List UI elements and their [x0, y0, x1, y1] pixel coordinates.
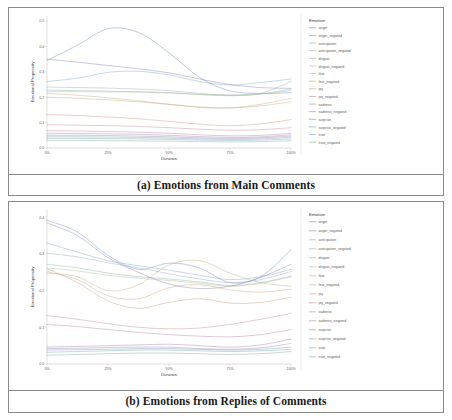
- legend-label-disgust_negated[interactable]: disgust_negated: [319, 265, 345, 269]
- series-line-anticipation: [47, 243, 291, 280]
- legend-label-anger[interactable]: anger: [319, 220, 329, 224]
- series-line-joy_negated: [47, 125, 291, 131]
- y-tick-label: 0.2: [39, 289, 44, 293]
- figure-caption-b: (b) Emotions from Replies of Comments: [9, 390, 443, 412]
- y-tick-label: 0.5: [39, 19, 44, 23]
- legend-label-anticipation[interactable]: anticipation: [319, 42, 337, 46]
- legend-label-fear_negated[interactable]: fear_negated: [319, 80, 340, 84]
- series-line-joy: [47, 269, 291, 309]
- legend-label-anticipation_negated[interactable]: anticipation_negated: [319, 247, 351, 251]
- series-line-trust_negated: [47, 352, 291, 356]
- legend-label-trust_negated[interactable]: trust_negated: [319, 141, 340, 145]
- x-tick-label: 25%: [104, 151, 112, 155]
- series-line-sadness_negated: [47, 339, 291, 347]
- legend-label-disgust[interactable]: disgust: [319, 57, 330, 61]
- x-tick-label: 75%: [226, 367, 234, 371]
- legend-label-anger_negated[interactable]: anger_negated: [319, 229, 343, 233]
- legend-label-surprise[interactable]: surprise: [319, 118, 332, 122]
- legend-title: Emotion: [309, 212, 326, 217]
- series-line-trust_negated: [47, 140, 291, 142]
- figure-panel-a: 0.00.10.20.30.40.50%25%50%75%100%Duratio…: [8, 7, 444, 196]
- figure-caption-a: (a) Emotions from Main Comments: [9, 174, 443, 196]
- y-tick-label: 0.4: [39, 216, 44, 220]
- legend-label-joy[interactable]: joy: [318, 292, 324, 296]
- y-tick-label: 0.4: [39, 45, 44, 49]
- y-tick-label: 0.1: [39, 326, 44, 330]
- legend-label-surprise_negated[interactable]: surprise_negated: [319, 337, 346, 341]
- legend-label-anger[interactable]: anger: [319, 26, 329, 30]
- chart-replies-comments: 0.00.10.20.30.40%25%50%75%100%DurationEm…: [9, 202, 443, 390]
- chart-main-comments: 0.00.10.20.30.40.50%25%50%75%100%Duratio…: [9, 8, 443, 174]
- legend-label-fear_negated[interactable]: fear_negated: [319, 283, 340, 287]
- legend-label-anticipation[interactable]: anticipation: [319, 238, 337, 242]
- y-tick-label: 0.1: [39, 121, 44, 125]
- series-line-anger: [47, 28, 291, 94]
- x-tick-label: 50%: [165, 151, 173, 155]
- series-line-anticipation: [47, 71, 291, 85]
- legend-label-trust[interactable]: trust: [319, 346, 326, 350]
- series-line-fear_negated: [47, 97, 291, 108]
- chart-svg-replies-comments: 0.00.10.20.30.40%25%50%75%100%DurationEm…: [9, 202, 443, 390]
- chart-svg-main-comments: 0.00.10.20.30.40.50%25%50%75%100%Duratio…: [9, 8, 443, 174]
- y-tick-label: 0.2: [39, 96, 44, 100]
- series-line-trust: [47, 138, 291, 140]
- legend-label-disgust_negated[interactable]: disgust_negated: [319, 65, 345, 69]
- legend-label-fear[interactable]: fear: [319, 274, 326, 278]
- series-line-anger_negated: [47, 59, 291, 88]
- legend-label-sadness_negated[interactable]: sadness_negated: [319, 110, 347, 114]
- legend-label-anger_negated[interactable]: anger_negated: [319, 34, 343, 38]
- legend-label-joy[interactable]: joy: [318, 87, 324, 91]
- series-line-anticipation_negated: [47, 253, 291, 282]
- x-tick-label: 100%: [286, 151, 296, 155]
- legend-label-disgust[interactable]: disgust: [319, 256, 330, 260]
- legend-label-sadness[interactable]: sadness: [319, 103, 332, 107]
- legend-label-fear[interactable]: fear: [319, 72, 326, 76]
- legend-label-trust[interactable]: trust: [319, 133, 326, 137]
- legend-label-surprise[interactable]: surprise: [319, 328, 332, 332]
- x-tick-label: 100%: [286, 367, 296, 371]
- x-tick-label: 50%: [165, 367, 173, 371]
- x-tick-label: 0%: [44, 151, 50, 155]
- y-axis-title: Emotional Propensity: [30, 266, 35, 307]
- legend-label-surprise_negated[interactable]: surprise_negated: [319, 126, 346, 130]
- series-line-fear: [47, 93, 291, 108]
- figure-panel-b: 0.00.10.20.30.40%25%50%75%100%DurationEm…: [8, 201, 444, 413]
- y-tick-label: 0.3: [39, 70, 44, 74]
- y-tick-label: 0.3: [39, 252, 44, 256]
- x-tick-label: 75%: [226, 151, 234, 155]
- legend-label-joy_negated[interactable]: joy_negated: [318, 301, 338, 305]
- series-line-joy: [47, 114, 291, 125]
- series-line-joy_negated: [47, 313, 291, 328]
- x-axis-title: Duration: [161, 372, 178, 377]
- series-line-sadness: [47, 324, 291, 337]
- legend-label-trust_negated[interactable]: trust_negated: [319, 355, 340, 359]
- figure-page: 0.00.10.20.30.40.50%25%50%75%100%Duratio…: [0, 0, 452, 420]
- legend-label-joy_negated[interactable]: joy_negated: [318, 95, 338, 99]
- legend-title: Emotion: [309, 18, 326, 23]
- x-tick-label: 0%: [44, 367, 50, 371]
- series-line-disgust: [47, 89, 291, 96]
- series-line-fear_negated: [47, 272, 291, 300]
- y-axis-title: Emotional Propensity: [30, 61, 35, 102]
- x-tick-label: 25%: [104, 367, 112, 371]
- series-line-disgust_negated: [47, 91, 291, 95]
- x-axis-title: Duration: [161, 156, 178, 161]
- legend-label-sadness[interactable]: sadness: [319, 310, 332, 314]
- legend-label-anticipation_negated[interactable]: anticipation_negated: [319, 49, 351, 53]
- legend-label-sadness_negated[interactable]: sadness_negated: [319, 319, 347, 323]
